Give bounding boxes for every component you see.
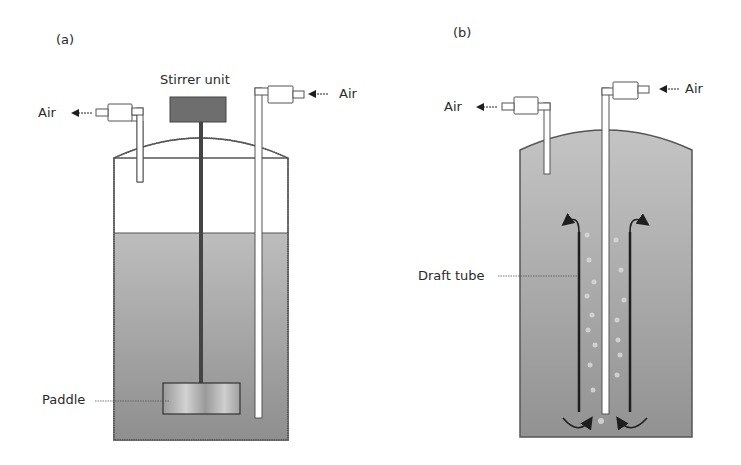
- panel-b-airlift: [478, 82, 692, 437]
- draft-tube-label: Draft tube: [418, 268, 485, 283]
- diagram-canvas: [0, 0, 741, 465]
- air-outlet-label-b: Air: [444, 99, 462, 114]
- panel-b-label: (b): [453, 25, 471, 40]
- stirrer-shaft: [199, 122, 203, 384]
- air-inlet-label-a: Air: [339, 86, 357, 101]
- stirrer-unit-label: Stirrer unit: [160, 72, 230, 87]
- air-inlet-label-b: Air: [685, 81, 703, 96]
- stirrer-unit: [170, 97, 226, 122]
- paddle: [163, 383, 240, 414]
- panel-a-label: (a): [56, 32, 74, 47]
- panel-a-stirred-tank: [73, 86, 328, 440]
- paddle-label: Paddle: [42, 392, 85, 407]
- air-outlet-label-a: Air: [38, 105, 56, 120]
